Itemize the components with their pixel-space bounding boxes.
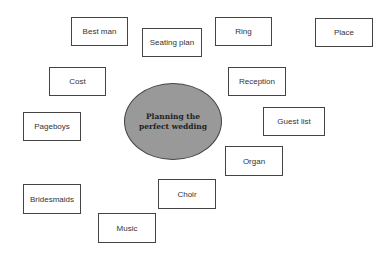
node-best-man: Best man	[71, 17, 128, 46]
node-seating-plan: Seating plan	[142, 28, 202, 57]
node-reception: Reception	[228, 67, 286, 96]
node-cost: Cost	[49, 67, 106, 96]
node-bridesmaids: Bridesmaids	[23, 184, 81, 214]
node-ring: Ring	[215, 17, 272, 46]
node-choir: Choir	[158, 179, 216, 209]
central-topic-label: Planning the perfect wedding	[139, 112, 207, 132]
node-pageboys: Pageboys	[23, 112, 81, 141]
node-organ: Organ	[225, 146, 283, 176]
node-guest-list: Guest list	[263, 107, 325, 136]
node-place: Place	[315, 18, 373, 47]
node-music: Music	[98, 213, 156, 243]
central-topic-ellipse: Planning the perfect wedding	[124, 83, 222, 160]
